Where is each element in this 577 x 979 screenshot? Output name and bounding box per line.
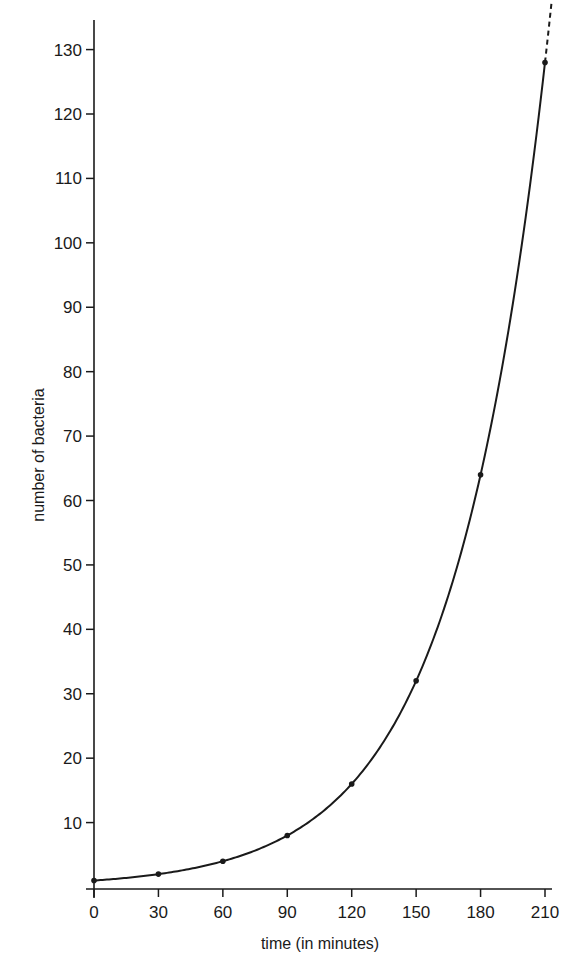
growth-curve xyxy=(94,62,545,880)
data-points xyxy=(91,60,548,884)
y-axis-label: number of bacteria xyxy=(30,388,47,522)
y-tick-label: 60 xyxy=(63,492,82,511)
x-tick-label: 180 xyxy=(466,903,494,922)
y-tick-label: 100 xyxy=(54,234,82,253)
y-tick-label: 80 xyxy=(63,363,82,382)
data-point xyxy=(220,858,226,864)
y-tick-label: 30 xyxy=(63,685,82,704)
x-tick-label: 60 xyxy=(213,903,232,922)
x-tick-label: 210 xyxy=(531,903,559,922)
y-tick-label: 20 xyxy=(63,749,82,768)
y-tick-label: 40 xyxy=(63,620,82,639)
y-tick-label: 90 xyxy=(63,298,82,317)
data-point xyxy=(156,871,162,877)
bacteria-growth-chart: 102030405060708090100110120130 030609012… xyxy=(0,0,577,979)
y-tick-label: 10 xyxy=(63,814,82,833)
data-point xyxy=(91,878,97,884)
axes xyxy=(86,20,552,898)
x-ticks: 0306090120150180210 xyxy=(89,889,559,922)
x-tick-label: 0 xyxy=(89,903,98,922)
x-tick-label: 120 xyxy=(338,903,366,922)
growth-curve-extension-dashed xyxy=(545,0,554,62)
data-point xyxy=(349,781,355,787)
data-point xyxy=(478,472,484,478)
y-tick-label: 110 xyxy=(55,169,82,188)
y-tick-label: 50 xyxy=(63,556,82,575)
y-ticks: 102030405060708090100110120130 xyxy=(54,41,94,833)
x-axis-label: time (in minutes) xyxy=(261,935,379,952)
x-tick-label: 90 xyxy=(278,903,297,922)
y-tick-label: 70 xyxy=(63,427,82,446)
y-tick-label: 120 xyxy=(54,105,82,124)
data-point xyxy=(542,60,548,66)
y-tick-label: 130 xyxy=(54,41,82,60)
x-tick-label: 30 xyxy=(149,903,168,922)
x-tick-label: 150 xyxy=(402,903,430,922)
data-point xyxy=(284,833,290,839)
data-point xyxy=(413,678,419,684)
